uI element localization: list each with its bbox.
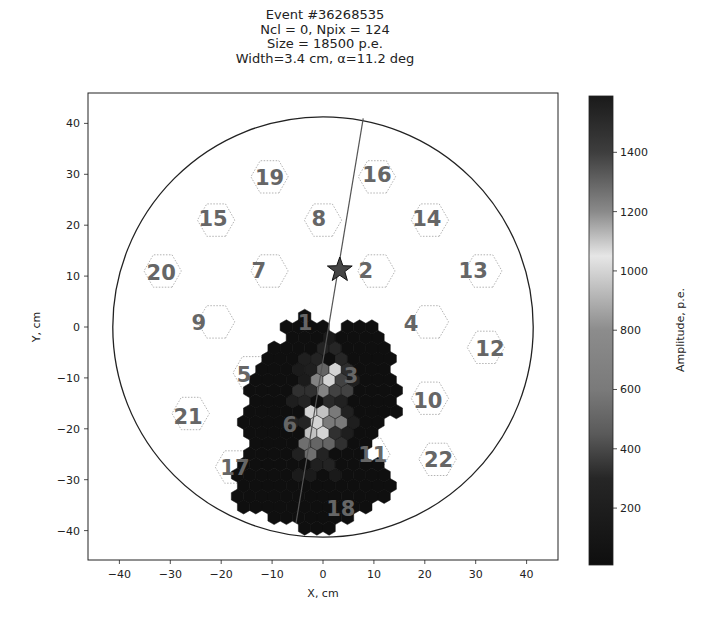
y-tick-label: −20	[57, 423, 80, 436]
y-tick-label: −30	[57, 474, 80, 487]
cluster-label-4: 4	[404, 312, 419, 336]
cluster-label-5: 5	[237, 363, 252, 387]
cluster-label-16: 16	[362, 163, 391, 187]
x-axis-label: X, cm	[307, 587, 338, 600]
cluster-label-17: 17	[220, 456, 249, 480]
x-tick-label: −20	[210, 568, 233, 581]
cluster-label-2: 2	[358, 259, 373, 283]
y-tick-label: 10	[66, 270, 80, 283]
colorbar-tick-label: 600	[620, 383, 641, 396]
cluster-label-10: 10	[413, 389, 442, 413]
cluster-label-11: 11	[358, 443, 387, 467]
y-tick-label: −10	[57, 372, 80, 385]
y-axis-label: Y, cm	[30, 312, 43, 343]
colorbar-tick-label: 400	[620, 443, 641, 456]
cluster-label-6: 6	[283, 413, 298, 437]
cluster-label-3: 3	[344, 364, 359, 388]
cluster-label-15: 15	[198, 207, 227, 231]
cluster-label-20: 20	[147, 261, 176, 285]
colorbar: 200400600800100012001400 Amplitude, p.e.	[589, 96, 687, 565]
x-tick-label: 40	[520, 568, 534, 581]
cluster-label-21: 21	[173, 405, 202, 429]
colorbar-label: Amplitude, p.e.	[674, 288, 687, 372]
cluster-label-14: 14	[412, 207, 441, 231]
y-tick-label: 40	[66, 117, 80, 130]
x-tick-label: 20	[418, 568, 432, 581]
colorbar-tick-label: 1200	[620, 206, 648, 219]
cluster-label-13: 13	[459, 259, 488, 283]
cluster-label-12: 12	[475, 337, 504, 361]
x-tick-label: 10	[367, 568, 381, 581]
camera-event-display: 19161581420721391412531021611221718 −40−…	[0, 0, 704, 628]
x-tick-label: −40	[108, 568, 131, 581]
cluster-label-18: 18	[326, 497, 355, 521]
colorbar-tick-label: 200	[620, 502, 641, 515]
x-tick-label: −30	[159, 568, 182, 581]
colorbar-ticks: 200400600800100012001400	[613, 146, 648, 515]
cluster-label-8: 8	[312, 207, 327, 231]
colorbar-tick-label: 1000	[620, 265, 648, 278]
y-tick-label: −40	[57, 525, 80, 538]
cluster-label-9: 9	[191, 311, 206, 335]
cluster-label-19: 19	[255, 166, 284, 190]
x-tick-label: 0	[320, 568, 327, 581]
x-tick-label: −10	[260, 568, 283, 581]
colorbar-tick-label: 800	[620, 324, 641, 337]
cluster-label-22: 22	[424, 448, 453, 472]
colorbar-gradient	[589, 96, 613, 565]
y-tick-label: 30	[66, 168, 80, 181]
plot-area: 19161581420721391412531021611221718	[113, 117, 533, 537]
cluster-label-7: 7	[252, 259, 267, 283]
y-axis-ticks: −40−30−20−10010203040	[57, 117, 88, 537]
y-tick-label: 0	[73, 321, 80, 334]
pixel-hexagons	[231, 309, 402, 535]
y-tick-label: 20	[66, 219, 80, 232]
source-star-marker	[327, 257, 352, 281]
x-tick-label: 30	[469, 568, 483, 581]
colorbar-tick-label: 1400	[620, 146, 648, 159]
x-axis-ticks: −40−30−20−10010203040	[108, 560, 534, 581]
cluster-label-1: 1	[298, 311, 313, 335]
